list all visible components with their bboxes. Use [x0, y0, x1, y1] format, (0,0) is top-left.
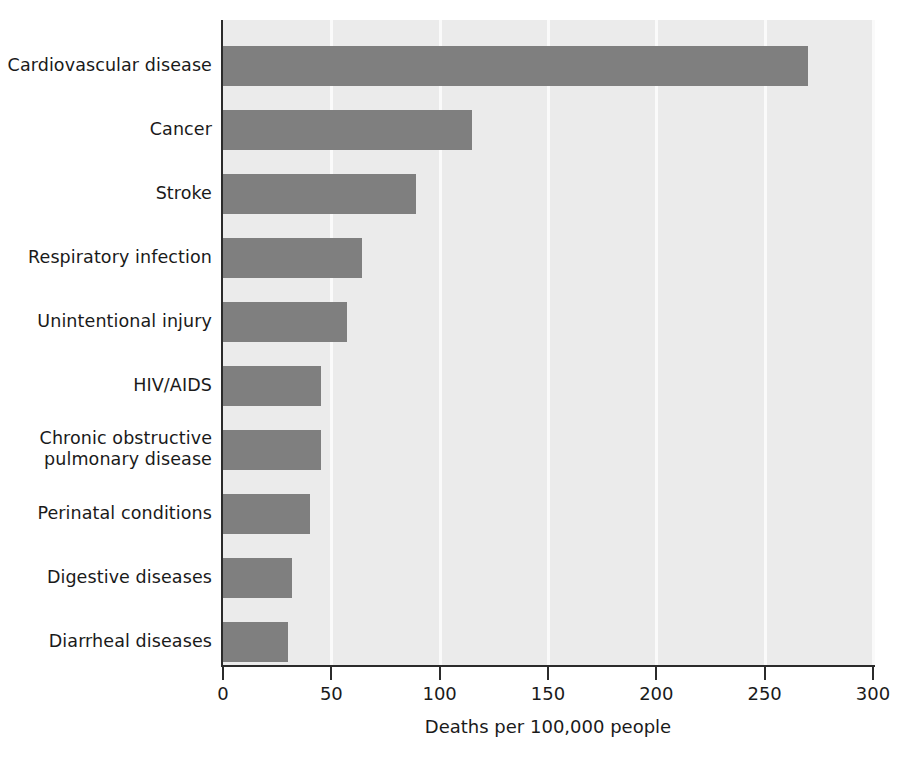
tick-label-250: 250 [735, 683, 795, 704]
tick-label-300: 300 [843, 683, 903, 704]
tick-mark-150 [547, 667, 549, 680]
category-label: HIV/AIDS [0, 375, 223, 396]
bar [223, 558, 292, 598]
bar [223, 174, 416, 214]
bar-row [223, 622, 873, 662]
tick-mark-100 [439, 667, 441, 680]
tick-label-150: 150 [518, 683, 578, 704]
bar-row [223, 174, 873, 214]
bar-row [223, 238, 873, 278]
tick-mark-200 [655, 667, 657, 680]
tick-label-50: 50 [301, 683, 361, 704]
category-label: Respiratory infection [0, 247, 223, 268]
bar [223, 46, 808, 86]
tick-mark-0 [222, 667, 224, 680]
category-label: Stroke [0, 183, 223, 204]
category-label: Unintentional injury [0, 311, 223, 332]
category-label: Diarrheal diseases [0, 631, 223, 652]
bar [223, 366, 321, 406]
bar [223, 302, 347, 342]
tick-label-200: 200 [626, 683, 686, 704]
bar-row [223, 110, 873, 150]
bar-chart: Cardiovascular diseaseCancerStrokeRespir… [0, 0, 923, 764]
bar-row [223, 558, 873, 598]
bar [223, 430, 321, 470]
tick-mark-250 [764, 667, 766, 680]
category-label: Digestive diseases [0, 567, 223, 588]
bar-row [223, 430, 873, 470]
tick-mark-300 [872, 667, 874, 680]
bar [223, 622, 288, 662]
category-label: Chronic obstructive pulmonary disease [0, 428, 223, 470]
bar [223, 110, 472, 150]
bar-row [223, 46, 873, 86]
category-label: Perinatal conditions [0, 503, 223, 524]
bar [223, 494, 310, 534]
bar-row [223, 366, 873, 406]
tick-label-0: 0 [193, 683, 253, 704]
x-axis-title: Deaths per 100,000 people [223, 716, 873, 737]
bar-row [223, 494, 873, 534]
bar [223, 238, 362, 278]
category-label: Cancer [0, 119, 223, 140]
bar-row [223, 302, 873, 342]
category-label: Cardiovascular disease [0, 55, 223, 76]
tick-label-100: 100 [410, 683, 470, 704]
tick-mark-50 [330, 667, 332, 680]
